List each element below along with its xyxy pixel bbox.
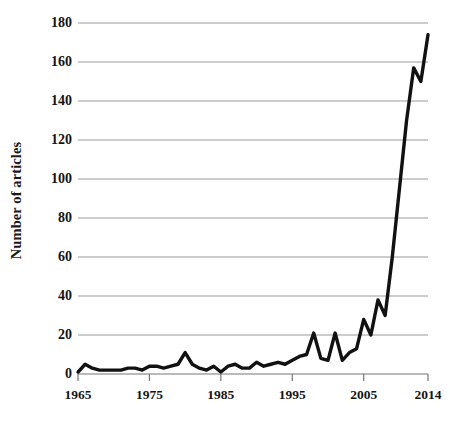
x-tick-label: 2014: [415, 388, 442, 402]
x-tick-label: 2005: [350, 388, 377, 402]
x-tick-label: 1985: [207, 388, 234, 402]
x-tick-label: 1995: [279, 388, 306, 402]
x-tick-label: 1975: [136, 388, 163, 402]
x-axis-tick-labels: 196519751985199520052014: [0, 0, 450, 431]
x-tick-label: 1965: [65, 388, 92, 402]
chart-container: Number of articles 020406080100120140160…: [0, 0, 450, 431]
